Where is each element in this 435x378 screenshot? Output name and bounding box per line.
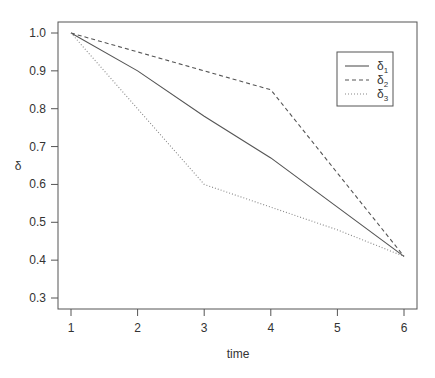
line-chart: 0.30.40.50.60.70.80.91.0 123456 time δ δ… xyxy=(0,0,435,378)
x-axis-label: time xyxy=(227,347,250,361)
x-tick-label: 2 xyxy=(134,321,141,335)
y-axis: 0.30.40.50.60.70.80.91.0 xyxy=(29,26,58,305)
y-tick-label: 0.7 xyxy=(29,140,46,154)
y-tick-label: 0.9 xyxy=(29,64,46,78)
x-tick-label: 5 xyxy=(334,321,341,335)
x-tick-label: 4 xyxy=(267,321,274,335)
x-tick-label: 6 xyxy=(401,321,408,335)
x-tick-label: 1 xyxy=(68,321,75,335)
y-axis-label: δ xyxy=(15,159,22,173)
x-tick-label: 3 xyxy=(201,321,208,335)
y-tick-label: 0.4 xyxy=(29,253,46,267)
y-tick-label: 1.0 xyxy=(29,26,46,40)
y-tick-label: 0.6 xyxy=(29,177,46,191)
x-axis: 123456 xyxy=(68,309,408,335)
y-tick-label: 0.5 xyxy=(29,215,46,229)
legend: δ1δ2δ3 xyxy=(337,52,393,106)
y-tick-label: 0.8 xyxy=(29,102,46,116)
y-tick-label: 0.3 xyxy=(29,291,46,305)
